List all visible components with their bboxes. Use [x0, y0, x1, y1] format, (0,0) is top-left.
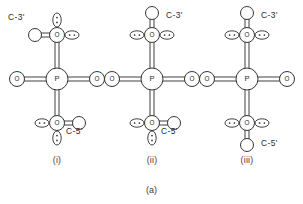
lone-pair-o-bottom-down-ii [148, 131, 156, 145]
carbon-3prime-atom-iii [241, 7, 254, 20]
oxygen-right-atom-i: O [90, 72, 105, 87]
label-c5prime-iii: C-5' [261, 138, 278, 148]
svg-text:O: O [245, 31, 250, 38]
chemical-structure-figure: OOOOPC-3'C-5'(i)OOOOPC-3'C-5'(ii)OOOOPC-… [0, 0, 303, 204]
panel-label-i: (i) [53, 155, 62, 165]
svg-text:P: P [244, 74, 249, 83]
oxygen-left-atom-i: O [10, 72, 25, 87]
phosphorus-atom-i: P [46, 68, 68, 90]
svg-text:O: O [150, 31, 155, 38]
lone-pair-o-bottom-right-iii [255, 119, 269, 127]
carbon-3prime-atom-i [29, 29, 42, 42]
carbon-3prime-atom-ii [146, 7, 159, 20]
svg-text:O: O [150, 119, 155, 126]
oxygen-top-atom-iii: O [240, 28, 255, 43]
oxygen-top-atom-i: O [50, 28, 65, 43]
panel-label-iii: (iii) [241, 155, 254, 165]
lone-pair-o-top-left-ii [130, 31, 144, 39]
svg-text:O: O [95, 75, 100, 82]
lone-pair-o-top-right-ii [160, 31, 174, 39]
oxygen-left-atom-ii: O [105, 72, 120, 87]
phosphorus-atom-iii: P [236, 68, 258, 90]
oxygen-right-atom-iii: O [280, 72, 295, 87]
oxygen-bottom-atom-iii: O [240, 116, 255, 131]
oxygen-bottom-atom-i: O [50, 116, 65, 131]
label-c3prime-ii: C-3' [166, 10, 183, 20]
label-c3prime-i: C-3' [8, 12, 25, 22]
lone-pair-o-top-right-iii [255, 31, 269, 39]
oxygen-bottom-atom-ii: O [145, 116, 160, 131]
panel-label-ii: (ii) [147, 155, 158, 165]
lone-pair-o-top-right-i [65, 31, 79, 39]
lone-pair-o-bottom-left-ii [130, 119, 144, 127]
svg-text:O: O [15, 75, 20, 82]
svg-text:P: P [54, 74, 59, 83]
lone-pair-o-top-up-i [53, 13, 61, 27]
phosphorus-atom-ii: P [141, 68, 163, 90]
svg-text:O: O [110, 75, 115, 82]
lone-pair-o-bottom-down-i [53, 131, 61, 145]
label-c5prime-ii: C-5' [161, 126, 178, 136]
oxygen-top-atom-ii: O [145, 28, 160, 43]
lone-pair-o-bottom-left-iii [225, 119, 239, 127]
svg-text:O: O [55, 119, 60, 126]
svg-text:O: O [285, 75, 290, 82]
svg-text:O: O [245, 119, 250, 126]
oxygen-left-atom-iii: O [200, 72, 215, 87]
svg-text:O: O [190, 75, 195, 82]
label-c3prime-iii: C-3' [261, 10, 278, 20]
svg-text:O: O [55, 31, 60, 38]
oxygen-right-atom-ii: O [185, 72, 200, 87]
figure-caption: (a) [146, 185, 157, 195]
lone-pair-o-bottom-left-i [35, 119, 49, 127]
structure-canvas: OOOOPC-3'C-5'(i)OOOOPC-3'C-5'(ii)OOOOPC-… [0, 0, 303, 204]
svg-text:O: O [205, 75, 210, 82]
label-c5prime-i: C-5' [66, 126, 83, 136]
lone-pair-o-top-left-iii [225, 31, 239, 39]
carbon-5prime-atom-iii [241, 139, 254, 152]
svg-text:P: P [149, 74, 154, 83]
